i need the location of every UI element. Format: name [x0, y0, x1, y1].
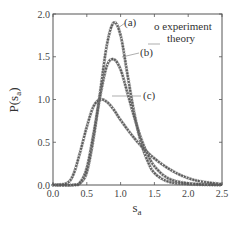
x-axis-label: sa [132, 200, 141, 217]
x-tick-label: 1.0 [114, 188, 127, 199]
series-c [53, 99, 222, 185]
ticks: 0.00.51.01.52.02.50.00.51.01.52.0 [38, 9, 229, 200]
x-tick-label: 2.5 [216, 188, 229, 199]
legend-theory: theory [167, 32, 196, 44]
plot-area [52, 21, 222, 186]
x-tick-label: 0.5 [81, 188, 94, 199]
y-tick-label: 2.0 [38, 9, 51, 20]
annotation-a: (a) [124, 16, 137, 29]
y-tick-label: 0.0 [38, 180, 51, 191]
y-axis-label: P(sa) [6, 88, 23, 113]
y-tick-label: 1.5 [38, 51, 51, 62]
annotation-b: (b) [140, 46, 153, 59]
annotation-c: (c) [143, 89, 156, 102]
y-tick-label: 0.5 [38, 137, 51, 148]
x-tick-label: 1.5 [148, 188, 161, 199]
chart: 0.00.51.01.52.02.50.00.51.01.52.0 sa P(s… [0, 0, 240, 225]
y-tick-label: 1.0 [38, 94, 51, 105]
legend-experiment: o experiment [154, 20, 212, 32]
x-tick-label: 2.0 [182, 188, 195, 199]
